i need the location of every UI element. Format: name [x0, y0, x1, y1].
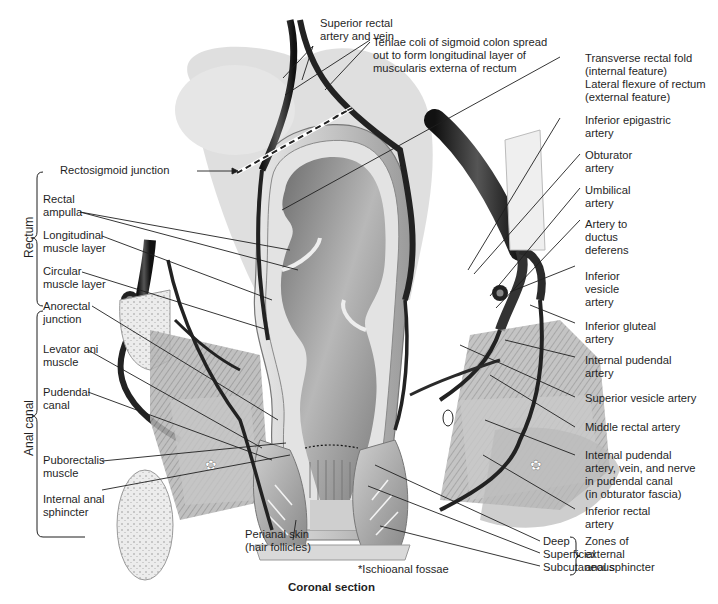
group-rectum: Rectum [22, 217, 36, 258]
figure-caption: Coronal section [288, 581, 375, 593]
label-obturator-artery: Obturator artery [585, 149, 632, 175]
label-circular-muscle-layer: Circular muscle layer [43, 265, 106, 291]
label-internal-anal-sphincter: Internal anal sphincter [43, 493, 105, 519]
label-anorectal-junction: Anorectal junction [43, 300, 90, 326]
label-puborectalis-muscle: Puborectalis muscle [43, 454, 105, 480]
label-middle-rectal-artery: Middle rectal artery [585, 421, 680, 434]
label-inferior-gluteal-artery: Inferior gluteal artery [585, 320, 656, 346]
label-superior-vesicle-artery: Superior vesicle artery [585, 392, 696, 405]
label-umbilical-artery: Umbilical artery [585, 184, 630, 210]
label-pudendal-canal: Pudendal canal [43, 386, 90, 412]
label-perianal-skin: Perianal skin (hair follicles) [245, 528, 311, 554]
label-levator-ani-muscle: Levator ani muscle [43, 343, 98, 369]
label-transverse-rectal-fold: Transverse rectal fold (internal feature… [585, 52, 706, 104]
label-longitudinal-muscle-layer: Longitudinal muscle layer [43, 229, 106, 255]
label-inferior-vesicle-artery: Inferior vesicle artery [585, 270, 620, 309]
label-rectal-ampulla: Rectal ampulla [43, 193, 82, 219]
label-internal-pudendal-artery: Internal pudendal artery [585, 354, 671, 380]
label-inferior-epigastric-artery: Inferior epigastric artery [585, 114, 671, 140]
label-rectosigmoid-junction: Rectosigmoid junction [60, 164, 169, 177]
label-internal-pudendal-avn: Internal pudendal artery, vein, and nerv… [585, 449, 695, 501]
label-artery-to-ductus-deferens: Artery to ductus deferens [585, 218, 629, 257]
ischioanal-fossa-marker-right: ✿ [530, 457, 542, 473]
label-deep: Deep [543, 535, 570, 548]
label-inferior-rectal-artery: Inferior rectal artery [585, 505, 650, 531]
group-anal-canal: Anal canal [22, 400, 36, 456]
label-teniae-coli: Teniae coli of sigmoid colon spread out … [373, 36, 547, 75]
group-zones-external-anal-sphincter: Zones of external anal sphincter [585, 535, 655, 574]
footnote-ischioanal-fossae: *Ischioanal fossae [358, 563, 449, 575]
